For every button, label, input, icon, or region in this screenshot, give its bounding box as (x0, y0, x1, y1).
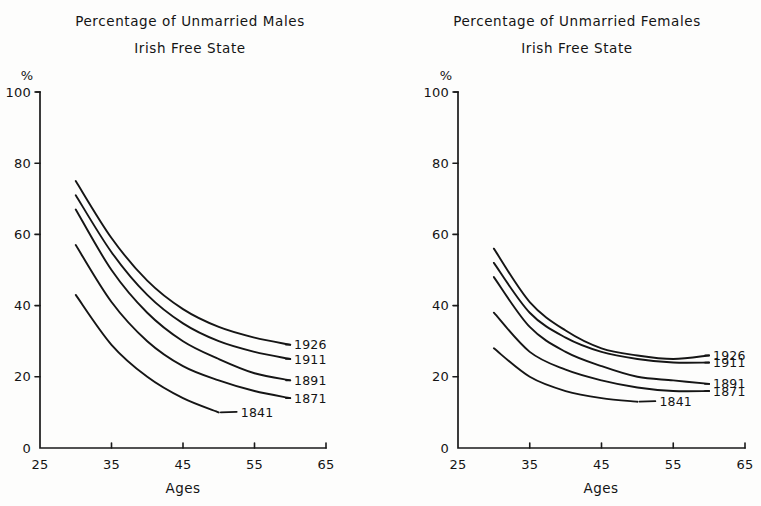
x-tick-label: 35 (103, 457, 120, 472)
series-label-1891: 1891 (294, 373, 327, 388)
series-label-1871: 1871 (294, 391, 327, 406)
x-tick-label: 65 (318, 457, 335, 472)
x-tick-label: 25 (450, 457, 467, 472)
origin-label: 0 (441, 441, 449, 456)
series-label-1911: 1911 (713, 355, 746, 370)
series-label-1841: 1841 (241, 405, 274, 420)
x-tick-labels-females: 2535455565 (450, 457, 754, 472)
y-tick-label: 20 (14, 369, 31, 384)
y-tick-label: 100 (6, 85, 31, 100)
series-labels-males: 19261911189118711841 (221, 337, 327, 420)
x-tick-label: 45 (175, 457, 192, 472)
chart-subtitle-males: Irish Free State (134, 40, 245, 56)
series-leader-1841 (221, 412, 237, 413)
y-tick-label: 40 (14, 298, 31, 313)
series-curve-1891 (494, 277, 709, 384)
series-curve-1841 (494, 348, 638, 401)
chart-females: Percentage of Unmarried Females Irish Fr… (381, 0, 761, 506)
series-label-1926: 1926 (294, 337, 327, 352)
chart-title-females: Percentage of Unmarried Females (453, 13, 701, 29)
chart-panel-females: Percentage of Unmarried Females Irish Fr… (381, 0, 761, 506)
y-tick-label: 60 (14, 227, 31, 242)
x-tick-labels-males: 2535455565 (32, 457, 335, 472)
y-axis-label-males: % (21, 68, 33, 83)
y-tick-label: 80 (432, 156, 449, 171)
x-tick-label: 45 (593, 457, 610, 472)
x-tick-label: 55 (246, 457, 263, 472)
series-curves-males (76, 181, 291, 412)
y-tick-label: 40 (432, 298, 449, 313)
y-axis-label-females: % (440, 68, 452, 83)
axes-females (453, 92, 745, 448)
series-label-1841: 1841 (659, 394, 692, 409)
series-label-1911: 1911 (294, 352, 327, 367)
origin-label: 0 (23, 441, 31, 456)
y-tick-label: 100 (424, 85, 449, 100)
chart-title-males: Percentage of Unmarried Males (75, 13, 305, 29)
x-tick-label: 55 (665, 457, 682, 472)
x-axis-label-females: Ages (583, 480, 618, 496)
series-curve-1926 (494, 249, 709, 359)
series-curves-females (494, 249, 709, 402)
figure-page: Percentage of Unmarried Males Irish Free… (0, 0, 761, 506)
series-curve-1911 (76, 195, 291, 359)
chart-subtitle-females: Irish Free State (521, 40, 632, 56)
series-leader-1841 (639, 401, 655, 402)
x-tick-label: 35 (521, 457, 538, 472)
y-tick-labels-females: 204060801000 (424, 85, 449, 456)
series-curve-1871 (76, 245, 291, 398)
series-curve-1891 (76, 209, 291, 380)
y-tick-labels-males: 204060801000 (6, 85, 31, 456)
axis-lines (40, 92, 326, 448)
y-tick-label: 20 (432, 369, 449, 384)
x-tick-label: 65 (737, 457, 754, 472)
chart-males: Percentage of Unmarried Males Irish Free… (0, 0, 380, 506)
axis-lines (458, 92, 745, 448)
y-tick-label: 60 (432, 227, 449, 242)
series-label-1871: 1871 (713, 384, 746, 399)
chart-panel-males: Percentage of Unmarried Males Irish Free… (0, 0, 380, 506)
axes-males (35, 92, 326, 448)
y-tick-label: 80 (14, 156, 31, 171)
x-tick-label: 25 (32, 457, 49, 472)
x-axis-label-males: Ages (165, 480, 200, 496)
